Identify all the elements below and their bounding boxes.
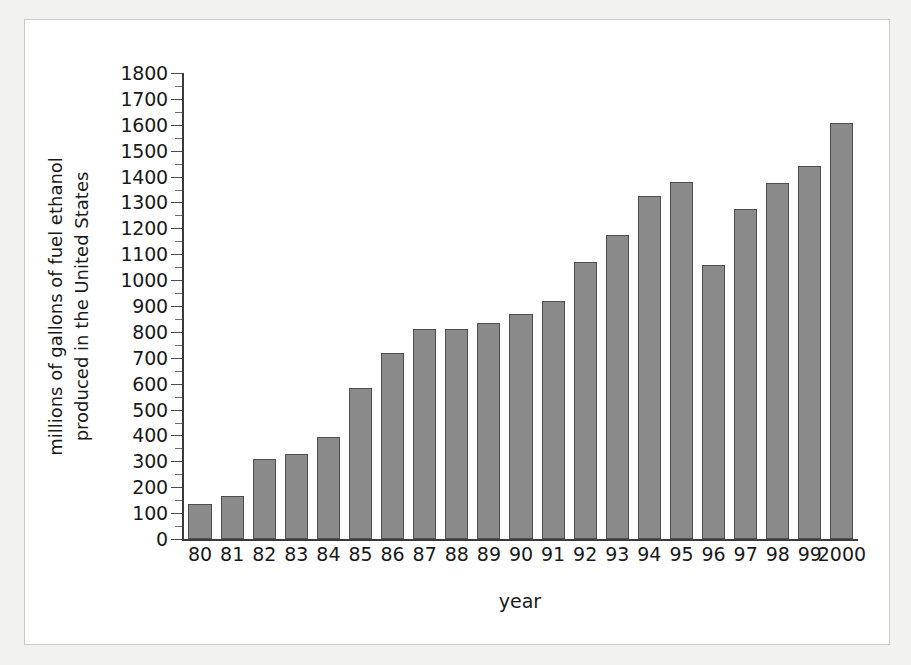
plot-area: 0100200300400500600700800900100011001200… xyxy=(182,73,858,540)
y-axis-tick xyxy=(171,151,182,152)
y-axis-tick-label: 1100 xyxy=(102,245,168,264)
y-axis-title: millions of gallons of fuel ethanol prod… xyxy=(43,73,99,540)
y-axis-minor-tick xyxy=(175,86,182,87)
y-axis-tick-label: 700 xyxy=(102,349,168,368)
y-axis-tick-label: 300 xyxy=(102,452,168,471)
x-axis-tick-label: 2000 xyxy=(816,545,868,564)
y-axis-minor-tick xyxy=(175,397,182,398)
y-axis-minor-tick xyxy=(175,448,182,449)
y-axis-minor-tick xyxy=(175,112,182,113)
x-axis-line xyxy=(182,539,858,541)
bar xyxy=(638,196,661,539)
y-axis-tick-label: 200 xyxy=(102,478,168,497)
y-axis-tick xyxy=(171,254,182,255)
x-axis-tick-labels: 8081828384858687888990919293949596979899… xyxy=(184,545,858,575)
bar xyxy=(830,123,853,539)
y-axis-tick xyxy=(171,384,182,385)
bar xyxy=(445,329,468,539)
bar xyxy=(221,496,244,539)
y-axis-tick-label: 1400 xyxy=(102,168,168,187)
y-axis-tick xyxy=(171,513,182,514)
bar xyxy=(606,235,629,539)
y-axis-tick-label: 0 xyxy=(102,530,168,549)
bar xyxy=(477,323,500,539)
bar-series xyxy=(184,73,858,539)
y-axis-tick-label: 400 xyxy=(102,426,168,445)
y-axis-tick xyxy=(171,435,182,436)
bar xyxy=(798,166,821,539)
y-axis-tick xyxy=(171,410,182,411)
y-axis-minor-tick xyxy=(175,138,182,139)
y-axis-minor-tick xyxy=(175,345,182,346)
y-axis-minor-tick xyxy=(175,526,182,527)
y-axis-tick xyxy=(171,332,182,333)
bar xyxy=(766,183,789,539)
y-axis-minor-tick xyxy=(175,241,182,242)
y-axis-tick xyxy=(171,125,182,126)
y-axis-tick-label: 1700 xyxy=(102,90,168,109)
y-axis-tick-label: 1000 xyxy=(102,271,168,290)
bar xyxy=(574,262,597,539)
y-axis-tick xyxy=(171,461,182,462)
y-axis-minor-tick xyxy=(175,423,182,424)
y-axis-tick xyxy=(171,280,182,281)
y-axis-tick-label: 1600 xyxy=(102,116,168,135)
y-axis-tick-label: 600 xyxy=(102,375,168,394)
y-axis-tick xyxy=(171,228,182,229)
y-axis-tick-label: 500 xyxy=(102,401,168,420)
bar xyxy=(349,388,372,539)
y-axis-minor-tick xyxy=(175,215,182,216)
figure-frame: millions of gallons of fuel ethanol prod… xyxy=(24,19,890,645)
y-axis-tick-label: 800 xyxy=(102,323,168,342)
y-axis-title-text: millions of gallons of fuel ethanol prod… xyxy=(43,73,95,540)
bar xyxy=(542,301,565,539)
y-axis-tick-label: 1500 xyxy=(102,142,168,161)
bar xyxy=(381,353,404,539)
y-axis-tick xyxy=(171,202,182,203)
y-axis-minor-tick xyxy=(175,293,182,294)
y-axis-tick-label: 1800 xyxy=(102,64,168,83)
y-axis-tick-label: 100 xyxy=(102,504,168,523)
bar xyxy=(509,314,532,539)
bar xyxy=(285,454,308,539)
bar xyxy=(188,504,211,539)
y-axis-minor-tick xyxy=(175,267,182,268)
bar-chart: millions of gallons of fuel ethanol prod… xyxy=(25,20,889,644)
y-axis-tick xyxy=(171,358,182,359)
bar xyxy=(702,265,725,539)
y-axis-minor-tick xyxy=(175,500,182,501)
x-axis-title: year xyxy=(182,590,858,612)
y-axis-minor-tick xyxy=(175,371,182,372)
y-axis-tick-label: 1200 xyxy=(102,219,168,238)
y-axis-tick xyxy=(171,177,182,178)
y-axis-tick xyxy=(171,487,182,488)
y-axis-minor-tick xyxy=(175,319,182,320)
bar xyxy=(253,459,276,539)
y-axis-tick-label: 900 xyxy=(102,297,168,316)
y-axis-tick xyxy=(171,99,182,100)
bar xyxy=(317,437,340,539)
y-axis-minor-tick xyxy=(175,190,182,191)
y-axis-tick xyxy=(171,73,182,74)
y-axis-tick-labels: 0100200300400500600700800900100011001200… xyxy=(96,73,168,540)
y-axis-tick-label: 1300 xyxy=(102,193,168,212)
bar xyxy=(413,329,436,539)
y-axis-tick xyxy=(171,306,182,307)
bar xyxy=(734,209,757,539)
bar xyxy=(670,182,693,539)
y-axis-tick xyxy=(171,539,182,540)
y-axis-minor-tick xyxy=(175,474,182,475)
y-axis-minor-tick xyxy=(175,164,182,165)
